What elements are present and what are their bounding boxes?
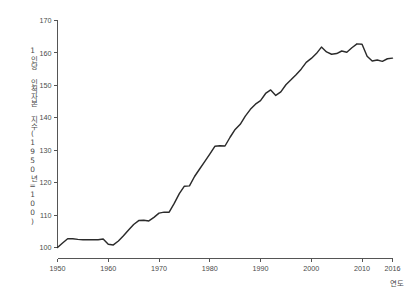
x-tick-label: 2016 [385,264,401,273]
x-tick-label: 2010 [354,264,370,273]
y-tick-label: 150 [40,81,52,90]
x-axis-title: 연도 [390,277,404,288]
y-tick-label: 120 [40,178,52,187]
x-tick-label: 2000 [303,264,319,273]
x-tick-label: 1950 [50,264,66,273]
chart-axes [58,21,393,259]
y-tick-label: 110 [40,211,51,220]
y-tick-label: 170 [40,16,52,25]
x-tick-label: 1970 [151,264,167,273]
y-tick-label: 140 [40,113,52,122]
y-tick-group: 100110120130140150160170 [40,16,58,252]
line-chart: 100110120130140150160170 195019601970198… [0,0,412,298]
y-tick-label: 160 [40,49,52,58]
x-tick-group: 19501960197019801990200020102016 [50,259,401,273]
y-tick-label: 100 [40,243,52,252]
y-axis-title: 1인당 인적자본 지수(1950년=100) [22,46,36,226]
x-tick-label: 1960 [100,264,116,273]
chart-container: 100110120130140150160170 195019601970198… [0,0,412,298]
x-tick-label: 1980 [202,264,218,273]
y-tick-label: 130 [40,146,52,155]
x-tick-label: 1990 [253,264,269,273]
data-series-line [58,44,393,248]
